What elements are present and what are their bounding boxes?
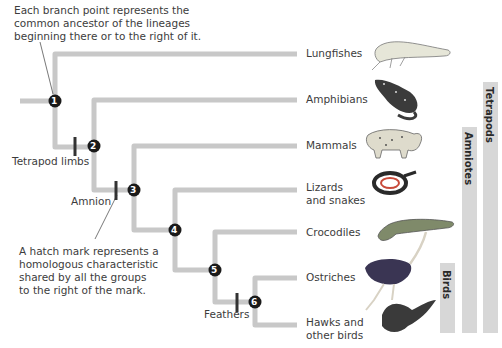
node-5-label: 5 xyxy=(211,264,217,277)
node-2-label: 2 xyxy=(90,140,96,153)
node-3-label: 3 xyxy=(130,184,136,197)
snake-icon xyxy=(374,172,416,193)
character-amnion: Amnion xyxy=(71,195,111,208)
salamander-icon xyxy=(375,80,418,119)
node-1-label: 1 xyxy=(51,95,57,108)
phylogenetic-tree-diagram: 1 2 3 4 5 6 Each branch point represents… xyxy=(0,0,502,348)
bobcat-icon xyxy=(366,130,421,158)
pointer-branch-point xyxy=(40,42,53,94)
node-4-label: 4 xyxy=(171,224,177,237)
clade-label-amniotes: Amniotes xyxy=(463,132,474,185)
clade-label-tetrapods: Tetrapods xyxy=(484,87,495,143)
character-tetrapod-limbs: Tetrapod limbs xyxy=(12,155,89,168)
ostrich-icon xyxy=(365,232,426,310)
hawk-icon xyxy=(382,300,436,332)
lungfish-icon xyxy=(372,42,450,70)
taxon-crocodiles: Crocodiles xyxy=(306,226,360,239)
taxon-lungfishes: Lungfishes xyxy=(306,47,362,60)
character-feathers: Feathers xyxy=(204,308,249,321)
crocodile-icon xyxy=(378,219,454,240)
clade-label-birds: Birds xyxy=(441,270,452,299)
node-6-label: 6 xyxy=(251,296,257,309)
taxon-amphibians: Amphibians xyxy=(306,93,368,106)
taxon-mammals: Mammals xyxy=(306,139,357,152)
taxon-ostriches: Ostriches xyxy=(306,271,355,284)
